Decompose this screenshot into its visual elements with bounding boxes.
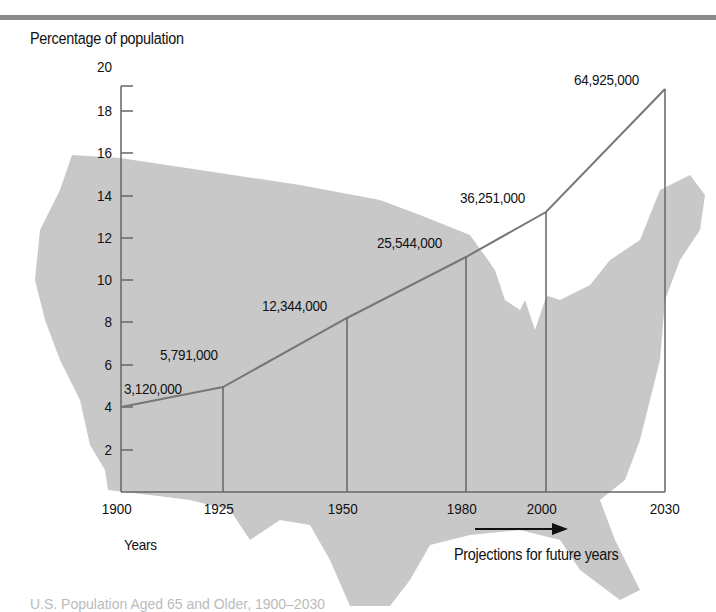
y-tick-label: 18 [85,102,112,119]
x-tick-label: 1925 [204,500,234,517]
data-label-1950: 12,344,000 [262,297,327,314]
y-tick-label: 8 [85,313,112,330]
y-tick-label: 16 [85,144,112,161]
y-tick-label: 6 [85,356,112,373]
projection-annotation: Projections for future years [454,546,619,564]
x-tick-label: 1980 [447,500,477,517]
x-axis-label: Years [124,536,157,553]
x-tick-label: 1900 [102,500,132,517]
y-tick-label: 10 [85,271,112,288]
x-tick-label: 2000 [527,500,557,517]
y-tick-label: 2 [85,441,112,458]
y-tick-label: 4 [85,398,112,415]
data-label-1900: 3,120,000 [124,380,182,397]
y-tick-label: 20 [85,58,112,75]
figure-caption: U.S. Population Aged 65 and Older, 1900–… [30,596,325,612]
y-axis-label: Percentage of population [30,30,184,48]
y-tick-label: 14 [85,187,112,204]
data-label-2030: 64,925,000 [574,71,639,88]
data-label-1925: 5,791,000 [160,346,218,363]
data-label-1980: 25,544,000 [377,234,442,251]
x-tick-label: 1950 [328,500,358,517]
y-tick-label: 12 [85,229,112,246]
x-tick-label: 2030 [650,500,680,517]
data-label-2000: 36,251,000 [460,189,525,206]
